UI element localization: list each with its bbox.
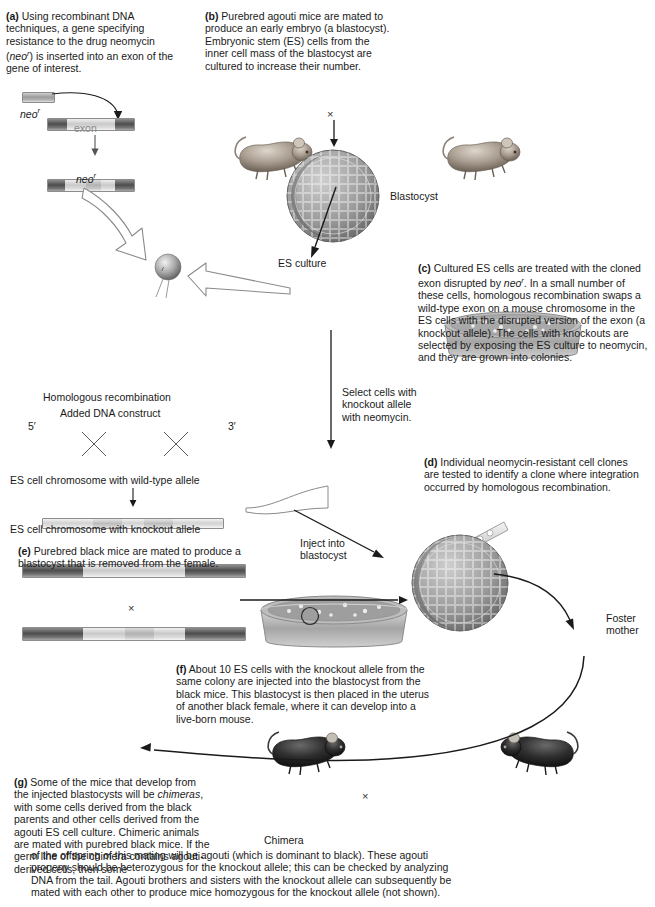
select-cells-label: Select cells withknockout allelewith neo… [342,386,454,423]
panel-b-caption: (b) Purebred agouti mice are mated to pr… [205,10,393,72]
crossover-lines [60,431,220,457]
panel-a-tag: (a) [6,10,19,22]
cross-symbol-g: × [362,790,368,802]
black-mating-to-blastocyst-arrow [240,594,410,606]
chimera-label: Chimera [264,834,304,846]
cross-symbol-e: × [128,602,134,614]
three-prime-label: 3′ [228,420,236,432]
cross-symbol-b: × [327,108,333,120]
blastocyst-label: Blastocyst [390,190,438,202]
foster-to-chimera-arrow [118,650,588,770]
recombination-result-arrow [128,488,138,508]
gene-transform-arrow [90,135,100,157]
panel-d-caption: (d) Individual neomycin-resistant cell c… [424,456,642,493]
homologous-recombination-title: Homologous recombination [43,391,171,403]
panel-b-text: Purebred agouti mice are mated to produc… [205,10,389,72]
panel-g-text-part2: of the offspring of this mating will be … [31,849,451,898]
mating-to-blastocyst-arrow [328,120,340,148]
chromosome-knockout-bar [22,627,246,641]
es-cell-sphere [150,252,190,298]
panel-e-text: Purebred black mice are mated to produce… [18,545,241,569]
panel-d-tag: (d) [424,456,437,468]
construct-transfer-arrow [76,186,158,268]
panel-c-caption: (c) Cultured ES cells are treated with t… [418,262,650,364]
icm-to-culture-arrow [306,185,342,261]
agouti-mouse-parent-2 [440,125,526,181]
panel-a-caption: (a) Using recombinant DNA techniques, a … [6,10,178,75]
panel-c-text: Cultured ES cells are treated with the c… [418,262,647,363]
added-dna-construct-label: Added DNA construct [60,407,160,419]
es-culture-label: ES culture [278,257,326,269]
panel-e-caption: (e) Purebred black mice are mated to pro… [18,545,266,570]
panel-g-caption-wide: of the offspring of this mating will be … [31,849,461,899]
panel-d-text: Individual neomycin-resistant cell clone… [424,456,639,493]
to-foster-mother-arrow [492,568,584,638]
panel-g-tag: (g) [14,776,27,788]
select-cells-arrow [325,330,337,450]
panel-c-tag: (c) [418,262,431,274]
neo-inserted-label: neor [76,170,96,185]
panel-b-tag: (b) [205,10,218,22]
neo-fragment-label: neor [20,105,40,120]
foster-mother-label: Fostermother [606,612,652,637]
panel-a-text: Using recombinant DNA techniques, a gene… [6,10,173,74]
chromosome-wildtype-label: ES cell chromosome with wild-type allele [10,474,200,486]
exon-label: exon [74,122,97,134]
chromosome-knockout-label: ES cell chromosome with knockout allele [10,523,200,535]
inject-into-blastocyst-label: Inject intoblastocyst [300,537,380,562]
five-prime-label: 5′ [28,420,36,432]
panel-e-tag: (e) [18,545,31,557]
